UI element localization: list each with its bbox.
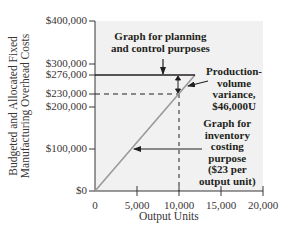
- y-tick-230000: $230,000: [27, 87, 87, 99]
- y-ticks: [89, 21, 95, 191]
- y-tick-0: $0: [27, 184, 87, 196]
- planning-annotation-line2: and control purposes: [111, 43, 210, 55]
- y-tick-400000: $400,000: [27, 14, 87, 26]
- inventory-annotation-line3: costing: [199, 141, 256, 153]
- variance-annotation-line4: $46,000U: [206, 101, 262, 113]
- y-axis-title-line1: Budgeted and Allocated Fixed: [7, 34, 19, 178]
- variance-annotation: Production- volume variance, $46,000U: [206, 66, 262, 112]
- variance-annotation-line1: Production-: [206, 66, 262, 78]
- y-tick-276000: $276,000: [27, 68, 87, 80]
- x-axis-title: Output Units: [139, 210, 199, 222]
- inventory-annotation: Graph for inventory costing purpose ($23…: [199, 118, 256, 187]
- variance-annotation-line3: variance,: [206, 89, 262, 101]
- inventory-annotation-line1: Graph for: [199, 118, 256, 130]
- x-tick-20000: 20,000: [238, 199, 288, 211]
- y-tick-200000: $200,000: [27, 100, 87, 112]
- y-tick-100000: $100,000: [27, 142, 87, 154]
- planning-annotation: Graph for planning and control purposes: [111, 31, 210, 54]
- inventory-annotation-line6: output unit): [199, 176, 256, 188]
- planning-annotation-line1: Graph for planning: [111, 31, 210, 43]
- inventory-annotation-line5: ($23 per: [199, 164, 256, 176]
